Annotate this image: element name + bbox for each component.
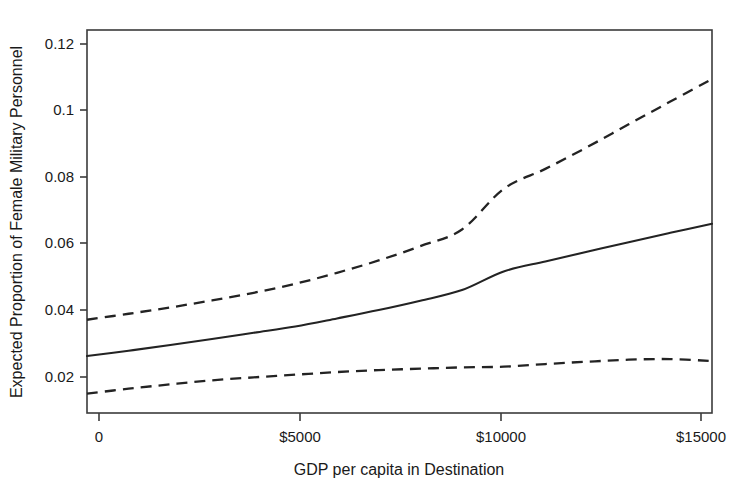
chart-figure: 0.12 0.1 0.08 0.06 0.04 0.02 0 $5000 $10…	[0, 0, 734, 487]
x-tick-label-2: $10000	[476, 428, 526, 445]
x-tick-label-0: 0	[95, 428, 103, 445]
data-series-group	[87, 79, 712, 394]
x-axis-ticks	[99, 413, 701, 421]
x-axis-title: GDP per capita in Destination	[294, 461, 504, 478]
series-lower-confidence-bound	[87, 359, 712, 394]
y-tick-label-5: 0.12	[45, 35, 74, 52]
x-tick-label-3: $15000	[676, 428, 726, 445]
y-tick-label-2: 0.06	[45, 234, 74, 251]
x-axis-tick-labels: 0 $5000 $10000 $15000	[95, 428, 726, 445]
plot-frame	[87, 30, 712, 413]
y-tick-label-3: 0.08	[45, 168, 74, 185]
series-fitted-line	[87, 224, 712, 356]
y-tick-label-4: 0.1	[53, 101, 74, 118]
y-axis-title: Expected Proportion of Female Military P…	[8, 46, 25, 398]
y-tick-label-0: 0.02	[45, 368, 74, 385]
chart-canvas: 0.12 0.1 0.08 0.06 0.04 0.02 0 $5000 $10…	[0, 0, 734, 487]
series-upper-confidence-bound	[87, 79, 712, 320]
y-axis-ticks	[80, 44, 87, 377]
x-tick-label-1: $5000	[279, 428, 321, 445]
y-tick-label-1: 0.04	[45, 301, 74, 318]
y-axis-tick-labels: 0.12 0.1 0.08 0.06 0.04 0.02	[45, 35, 74, 385]
